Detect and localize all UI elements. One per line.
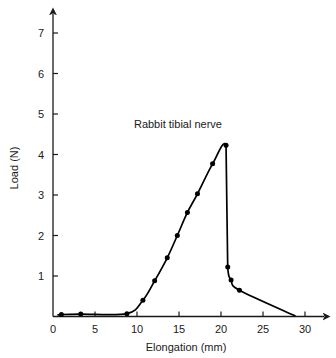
- y-axis-title: Load (N): [8, 147, 20, 190]
- data-point-marker: [124, 311, 129, 316]
- x-tick-label: 15: [173, 323, 185, 335]
- y-tick-label: 1: [38, 270, 44, 282]
- data-point-marker: [59, 312, 64, 317]
- x-tick-label: 25: [257, 323, 269, 335]
- series-annotation-label: Rabbit tibial nerve: [134, 118, 222, 130]
- x-tick-label: 10: [131, 323, 143, 335]
- data-point-marker: [229, 278, 234, 283]
- y-tick-label: 2: [38, 230, 44, 242]
- x-tick-label: 0: [50, 323, 56, 335]
- x-tick-label: 30: [299, 323, 311, 335]
- chart-container: 1234567 051015202530 Rabbit tibial nerve…: [0, 0, 336, 358]
- data-point-marker: [78, 312, 83, 317]
- y-tick-label: 5: [38, 108, 44, 120]
- y-tick-label: 7: [38, 27, 44, 39]
- data-point-marker: [165, 255, 170, 260]
- data-point-marker: [225, 265, 230, 270]
- data-point-marker: [224, 143, 229, 148]
- data-point-marker: [175, 233, 180, 238]
- chart-background: [0, 0, 336, 358]
- data-point-marker: [195, 191, 200, 196]
- x-tick-label: 5: [92, 323, 98, 335]
- data-point-marker: [237, 288, 242, 293]
- y-tick-label: 4: [38, 149, 44, 161]
- data-point-marker: [140, 298, 145, 303]
- x-axis-title: Elongation (mm): [146, 341, 227, 353]
- load-elongation-chart: 1234567 051015202530 Rabbit tibial nerve…: [0, 0, 336, 358]
- data-point-marker: [152, 278, 157, 283]
- data-point-marker: [185, 210, 190, 215]
- y-tick-label: 6: [38, 68, 44, 80]
- x-tick-label: 20: [215, 323, 227, 335]
- data-point-marker: [210, 161, 215, 166]
- y-tick-label: 3: [38, 189, 44, 201]
